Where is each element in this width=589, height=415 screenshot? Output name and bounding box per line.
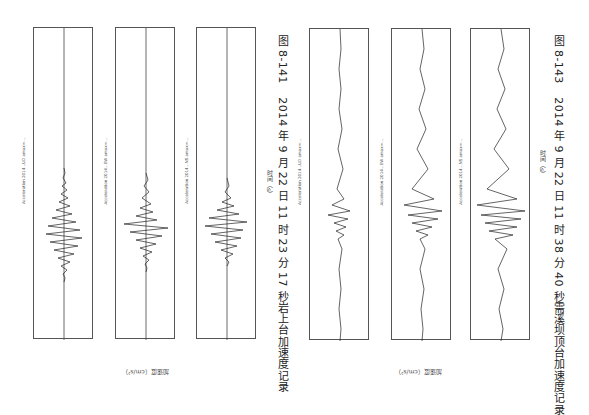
plot-title: Acceleration 2014…UD amax=… bbox=[297, 139, 302, 205]
seismogram-plot-ud: Acceleration 2014…UD amax=… bbox=[309, 28, 369, 340]
caption-number: 图 8-143 bbox=[552, 35, 565, 84]
waveform-trace bbox=[34, 28, 94, 340]
plot-title: Acceleration 2014…NS amax=… bbox=[184, 138, 189, 204]
seismogram-plot-ns: Acceleration 2014…NS amax=… bbox=[196, 27, 256, 339]
time-axis-label: 时间（s） bbox=[265, 170, 274, 197]
figure-caption: 图 8-143 2014 年 9 月 22 日 11 时 38 分 40 秒需溪… bbox=[550, 35, 566, 415]
caption-text: 2014 年 9 月 22 日 11 时 38 分 40 秒需溪坝顶台加速度记录 bbox=[552, 97, 565, 414]
acceleration-axis-label: 加速度（cm/s²） bbox=[395, 368, 442, 377]
seismogram-plot-ew: Acceleration 2014…EW amax=… bbox=[391, 28, 451, 340]
figure-caption: 图 8-141 2014 年 9 月 22 日 11 时 23 分 17 秒岩上… bbox=[274, 35, 290, 392]
waveform-trace bbox=[392, 29, 452, 341]
caption-number: 图 8-141 bbox=[276, 35, 289, 84]
plot-title: Acceleration 2014…EW amax=… bbox=[379, 139, 384, 206]
waveform-trace bbox=[471, 29, 531, 341]
plot-title: Acceleration 2014…NS amax=… bbox=[458, 139, 463, 205]
plot-title: Acceleration 2014…UD amax=… bbox=[21, 138, 26, 204]
seismogram-plot-ew: Acceleration 2014…EW amax=… bbox=[115, 27, 175, 339]
time-axis-label: 时间（s） bbox=[538, 150, 547, 177]
seismogram-plot-ud: Acceleration 2014…UD amax=… bbox=[33, 27, 93, 339]
waveform-trace bbox=[197, 28, 257, 340]
waveform-trace bbox=[116, 28, 176, 340]
waveform-trace bbox=[310, 29, 370, 341]
seismogram-plot-ns: Acceleration 2014…NS amax=… bbox=[470, 28, 530, 340]
acceleration-axis-label: 加速度（cm/s²） bbox=[122, 368, 169, 377]
plot-title: Acceleration 2014…EW amax=… bbox=[103, 138, 108, 205]
caption-text: 2014 年 9 月 22 日 11 时 23 分 17 秒岩上台加速度记录 bbox=[276, 97, 289, 392]
